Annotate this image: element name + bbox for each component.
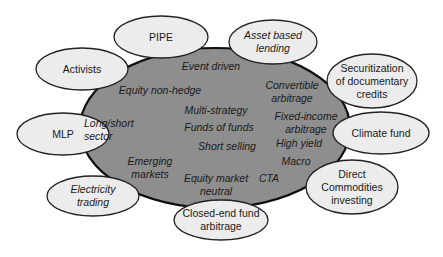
core-label-cta: CTA: [259, 172, 279, 185]
core-label-event-driven: Event driven: [182, 60, 240, 73]
core-label-equity-market-neutral: Equity market neutral: [184, 172, 248, 198]
hedge-fund-strategy-diagram: Event driven Equity non-hedge Convertibl…: [0, 0, 443, 257]
satellite-label-activists: Activists: [63, 63, 102, 76]
core-label-macro: Macro: [281, 155, 310, 168]
core-label-fixed-income-arbitrage: Fixed-income arbitrage: [274, 110, 337, 136]
core-label-high-yield: High yield: [276, 137, 322, 150]
satellite-label-asset-based-lending: Asset based lending: [244, 29, 302, 55]
core-label-short-selling: Short selling: [198, 140, 256, 153]
core-label-long-short-sector: Long/short sector: [84, 117, 134, 143]
core-label-emerging-markets: Emerging markets: [128, 155, 173, 181]
satellite-label-securitization: Securitization of documentary credits: [336, 62, 408, 101]
core-label-funds-of-funds: Funds of funds: [184, 121, 253, 134]
core-label-equity-non-hedge: Equity non-hedge: [119, 84, 201, 97]
satellite-label-pipe: PIPE: [149, 31, 173, 44]
core-label-convertible-arbitrage: Convertible arbitrage: [265, 79, 318, 105]
core-label-multi-strategy: Multi-strategy: [184, 104, 247, 117]
satellite-label-climate-fund: Climate fund: [352, 127, 411, 140]
satellite-label-electricity-trading: Electricity trading: [71, 183, 116, 209]
satellite-label-mlp: MLP: [52, 128, 74, 141]
satellite-label-closed-end-fund: Closed-end fund arbitrage: [182, 207, 259, 233]
satellite-label-direct-commodities: Direct Commodities investing: [321, 168, 382, 207]
